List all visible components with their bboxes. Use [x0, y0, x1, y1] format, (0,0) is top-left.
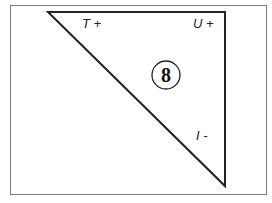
triangle [48, 12, 225, 186]
label-t-plus: T + [82, 16, 102, 31]
label-i-minus: I - [196, 128, 208, 143]
label-u-plus: U + [193, 16, 214, 31]
number-badge-text: 8 [161, 64, 171, 86]
diagram-canvas: T + U + I - 8 [0, 0, 272, 203]
